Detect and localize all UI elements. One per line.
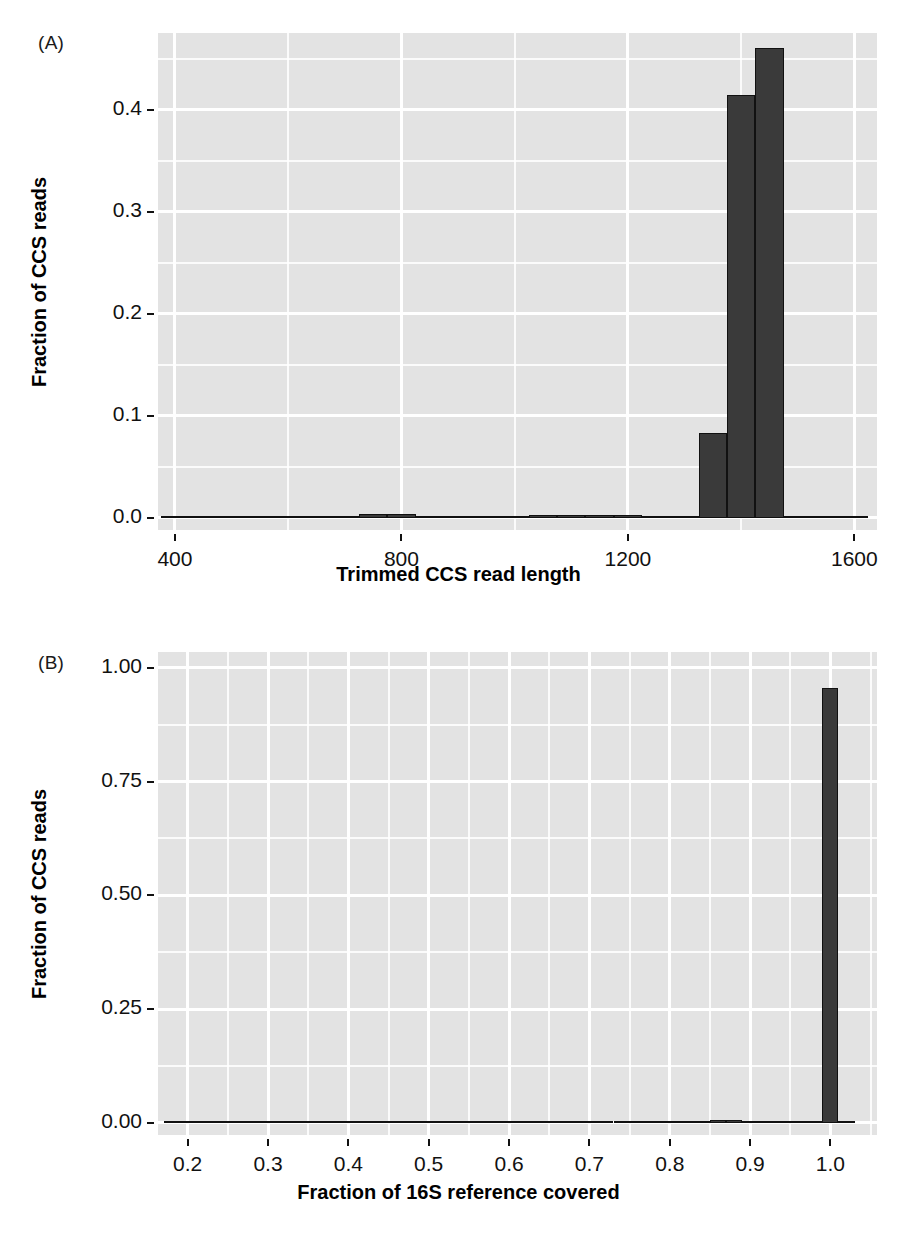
- x-tick-mark: [627, 534, 629, 541]
- histogram-bar: [630, 1121, 646, 1123]
- x-tick-mark: [400, 534, 402, 541]
- y-tick-label: 0.1: [90, 402, 142, 426]
- x-tick-label: 0.7: [544, 1152, 634, 1176]
- histogram-bar: [670, 516, 698, 518]
- histogram-bar: [421, 1121, 437, 1123]
- histogram-bar: [340, 1121, 356, 1123]
- panel-b-x-axis-title: Fraction of 16S reference covered: [0, 1181, 917, 1204]
- histogram-bar: [405, 1121, 421, 1123]
- panel-b-label: (B): [38, 652, 64, 674]
- histogram-bar: [359, 514, 387, 518]
- histogram-bar: [161, 516, 189, 518]
- y-tick-label: 0.0: [90, 504, 142, 528]
- x-tick-label: 0.6: [464, 1152, 554, 1176]
- histogram-bar: [244, 1121, 260, 1123]
- histogram-bar: [840, 516, 868, 518]
- y-tick-mark: [147, 894, 154, 896]
- x-tick-label: 1.0: [785, 1152, 875, 1176]
- histogram-bar: [597, 1121, 613, 1123]
- histogram-bar: [742, 1121, 758, 1123]
- histogram-bar: [614, 515, 642, 518]
- histogram-bar: [662, 1121, 678, 1123]
- histogram-bar: [453, 1121, 469, 1123]
- histogram-bar: [212, 1121, 228, 1123]
- histogram-bar: [331, 516, 359, 518]
- panel-b-y-axis-title: Fraction of CCS reads: [28, 788, 51, 998]
- histogram-bar: [642, 516, 670, 518]
- histogram-bar: [260, 1121, 276, 1123]
- histogram-bar: [812, 516, 840, 518]
- y-tick-mark: [147, 211, 154, 213]
- x-tick-label: 0.2: [143, 1152, 233, 1176]
- histogram-bar: [164, 1121, 180, 1123]
- histogram-bar: [565, 1121, 581, 1123]
- panel-a: (A) 0.00.10.20.30.4 40080012001600 Trimm…: [0, 0, 917, 616]
- y-tick-label: 0.00: [90, 1109, 142, 1133]
- x-tick-label: 0.5: [384, 1152, 474, 1176]
- x-tick-mark: [853, 534, 855, 541]
- histogram-bar: [387, 514, 415, 518]
- y-tick-label: 0.25: [90, 995, 142, 1019]
- y-tick-mark: [147, 1008, 154, 1010]
- histogram-bar: [274, 516, 302, 518]
- histogram-bar: [694, 1121, 710, 1123]
- y-tick-label: 0.3: [90, 198, 142, 222]
- histogram-bar: [389, 1121, 405, 1123]
- y-tick-label: 0.4: [90, 96, 142, 120]
- panel-b: (B) 0.000.250.500.751.00 0.20.30.40.50.6…: [0, 616, 917, 1233]
- y-tick-mark: [147, 109, 154, 111]
- histogram-bar: [189, 516, 217, 518]
- histogram-bar: [416, 516, 444, 518]
- histogram-bar: [469, 1121, 485, 1123]
- histogram-bar: [581, 1121, 597, 1123]
- histogram-bar: [533, 1121, 549, 1123]
- histogram-bar: [557, 515, 585, 518]
- histogram-bar: [699, 433, 727, 518]
- y-tick-label: 0.50: [90, 881, 142, 905]
- figure-container: (A) 0.00.10.20.30.4 40080012001600 Trimm…: [0, 0, 917, 1233]
- histogram-bar: [774, 1121, 790, 1123]
- panel-a-plot-area: [158, 33, 877, 530]
- x-tick-mark: [588, 1139, 590, 1146]
- histogram-bar: [710, 1120, 726, 1122]
- x-tick-label: 0.8: [625, 1152, 715, 1176]
- histogram-bar: [372, 1121, 388, 1123]
- histogram-bar: [356, 1121, 372, 1123]
- histogram-bar: [806, 1121, 822, 1123]
- x-tick-mark: [347, 1139, 349, 1146]
- panel-a-bars: [158, 33, 877, 530]
- histogram-bar: [246, 516, 274, 518]
- histogram-bar: [501, 1121, 517, 1123]
- x-tick-mark: [829, 1139, 831, 1146]
- histogram-bar: [437, 1121, 453, 1123]
- x-tick-mark: [187, 1139, 189, 1146]
- histogram-bar: [678, 1121, 694, 1123]
- histogram-bar: [324, 1121, 340, 1123]
- histogram-bar: [790, 1121, 806, 1123]
- panel-a-label: (A): [38, 32, 64, 54]
- histogram-bar: [549, 1121, 565, 1123]
- histogram-bar: [308, 1121, 324, 1123]
- histogram-bar: [758, 1121, 774, 1123]
- y-tick-mark: [147, 667, 154, 669]
- x-tick-label: 0.4: [303, 1152, 393, 1176]
- histogram-bar: [614, 1121, 630, 1123]
- histogram-bar: [838, 1121, 854, 1123]
- histogram-bar: [217, 516, 245, 518]
- x-tick-mark: [267, 1139, 269, 1146]
- histogram-bar: [276, 1121, 292, 1123]
- y-tick-label: 0.2: [90, 300, 142, 324]
- x-tick-label: 0.9: [705, 1152, 795, 1176]
- histogram-bar: [444, 516, 472, 518]
- panel-a-x-axis-title: Trimmed CCS read length: [0, 563, 917, 586]
- histogram-bar: [585, 515, 613, 518]
- y-tick-mark: [147, 781, 154, 783]
- histogram-bar: [302, 516, 330, 518]
- histogram-bar: [726, 1120, 742, 1122]
- histogram-bar: [196, 1121, 212, 1123]
- histogram-bar: [501, 516, 529, 518]
- y-tick-label: 0.75: [90, 768, 142, 792]
- histogram-bar: [472, 516, 500, 518]
- x-tick-mark: [669, 1139, 671, 1146]
- y-tick-mark: [147, 1122, 154, 1124]
